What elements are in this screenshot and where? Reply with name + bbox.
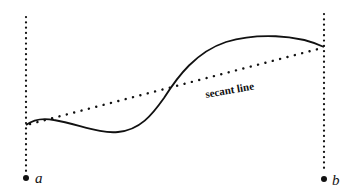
label-a: a [35, 170, 43, 186]
secant-line-label: secant line [204, 80, 255, 100]
point-a-dot [23, 175, 29, 181]
diagram-canvas: a b secant line [0, 0, 356, 195]
point-b-dot [321, 176, 327, 182]
secant-line-diagram: a b secant line [0, 0, 356, 195]
label-b: b [332, 172, 340, 188]
function-curve [26, 36, 324, 132]
secant-line [30, 48, 322, 124]
